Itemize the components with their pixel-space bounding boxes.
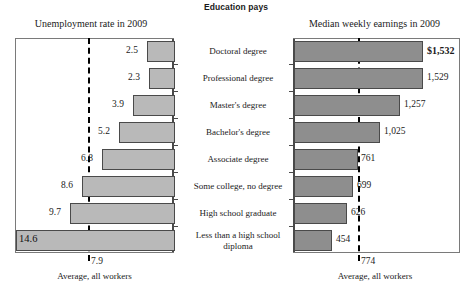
category-label-6: High school graduate: [182, 208, 294, 219]
bar-left-1: [149, 68, 175, 89]
value-label-right-6: 626: [351, 208, 365, 218]
bar-left-6: [70, 203, 175, 224]
category-label-7: Less than a high school diploma: [182, 230, 294, 251]
page-title: Education pays: [0, 2, 472, 12]
value-label-left-2: 3.9: [112, 100, 124, 110]
category-tick: [173, 118, 178, 119]
category-tick: [173, 91, 178, 92]
value-label-right-4: 761: [361, 154, 375, 164]
bar-left-7: [16, 230, 175, 251]
bar-right-1: [294, 68, 423, 89]
right-chart-title: Median weekly earnings in 2009: [287, 18, 462, 29]
bar-right-4: [294, 149, 358, 170]
bar-right-7: [294, 230, 332, 251]
category-label-3: Bachelor's degree: [182, 127, 294, 138]
right-average-value: 774: [361, 256, 375, 266]
left-chart-title: Unemployment rate in 2009: [6, 18, 176, 29]
right-average-caption: Average, all workers: [290, 271, 460, 281]
bar-left-2: [133, 95, 175, 116]
category-tick: [173, 226, 178, 227]
category-tick: [289, 226, 294, 227]
category-tick: [289, 118, 294, 119]
bar-right-2: [294, 95, 400, 116]
bar-left-5: [82, 176, 175, 197]
bar-left-0: [147, 41, 175, 62]
bar-right-6: [294, 203, 347, 224]
category-tick: [289, 199, 294, 200]
value-label-left-1: 2.3: [128, 73, 140, 83]
bar-left-3: [119, 122, 175, 143]
category-tick: [173, 145, 178, 146]
bar-right-3: [294, 122, 380, 143]
category-tick: [289, 91, 294, 92]
value-label-right-5: 699: [357, 181, 371, 191]
bar-left-4: [102, 149, 175, 170]
left-average-caption: Average, all workers: [15, 271, 174, 281]
category-tick: [173, 64, 178, 65]
category-label-2: Master's degree: [182, 100, 294, 111]
bar-right-0: [294, 41, 423, 62]
category-label-4: Associate degree: [182, 154, 294, 165]
left-average-value: 7.9: [91, 256, 103, 266]
category-tick: [289, 145, 294, 146]
category-label-1: Professional degree: [182, 73, 294, 84]
value-label-right-1: 1,529: [427, 73, 448, 83]
value-label-right-0: $1,532: [427, 46, 455, 56]
left-average-line: [88, 38, 90, 261]
value-label-right-2: 1,257: [404, 100, 425, 110]
value-label-left-6: 9.7: [49, 208, 61, 218]
category-tick: [289, 172, 294, 173]
category-tick: [173, 199, 178, 200]
value-label-left-5: 8.6: [61, 181, 73, 191]
left-chart-panel: Unemployment rate in 2009 2.5 2.3 3.9 5.…: [0, 18, 182, 293]
value-label-left-0: 2.5: [126, 46, 138, 56]
right-chart-panel: Median weekly earnings in 2009 $1,532 1,…: [292, 18, 472, 293]
category-label-0: Doctoral degree: [182, 46, 294, 57]
value-label-left-7: 14.6: [19, 234, 37, 245]
value-label-left-4: 6.8: [81, 154, 93, 164]
category-tick: [173, 172, 178, 173]
value-label-right-3: 1,025: [384, 127, 405, 137]
value-label-left-3: 5.2: [98, 127, 110, 137]
category-label-5: Some college, no degree: [182, 181, 294, 192]
bar-right-5: [294, 176, 353, 197]
category-tick: [289, 64, 294, 65]
category-label-column: Doctoral degree Professional degree Mast…: [182, 38, 294, 258]
value-label-right-7: 454: [336, 235, 350, 245]
